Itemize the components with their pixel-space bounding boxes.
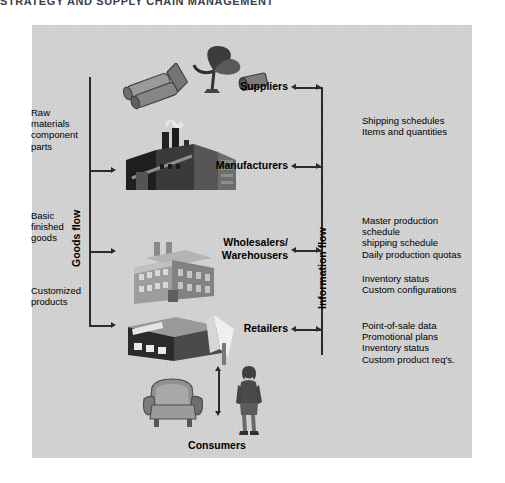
steel-rolls-icon (118, 63, 194, 115)
goods-input-customized-products: Customized products (31, 285, 91, 307)
info-arrow-right-manufacturers (316, 163, 321, 169)
stage-label-wholesalers: Wholesalers/ Warehousers (178, 236, 288, 261)
info-arrow-left-retailers (291, 326, 296, 332)
information-retailer-info: Point-of-sale data Promotional plans Inv… (362, 320, 484, 365)
goods-input-basic-finished-goods: Basic finished goods (31, 210, 89, 244)
supply-chain-diagram: Goods flow Information flow Suppliers Ma… (32, 25, 472, 458)
armchair-icon (142, 377, 204, 433)
information-flow-line (321, 87, 323, 355)
goods-flow-branch-manufacturers (89, 170, 111, 172)
info-arrow-right-suppliers (316, 84, 321, 90)
goods-flow-arrow-retailers (111, 322, 116, 328)
goods-flow-arrow-manufacturers (111, 167, 116, 173)
info-arrow-left-wholesalers (291, 247, 296, 253)
info-arrow-left-manufacturers (291, 163, 296, 169)
goods-flow-branch-wholesalers (89, 251, 111, 253)
consumers-flow-line (218, 371, 220, 413)
page-title: STRATEGY AND SUPPLY CHAIN MANAGEMENT (0, 0, 505, 7)
information-wholesaler-info: Inventory status Custom configurations (362, 273, 480, 295)
information-supplier-info: Shipping schedules Items and quantities (362, 115, 480, 137)
goods-flow-arrow-wholesalers (111, 248, 116, 254)
consumers-arrow-down (215, 411, 221, 416)
info-arrow-left-suppliers (291, 84, 296, 90)
stage-label-retailers: Retailers (194, 322, 288, 335)
stage-label-manufacturers: Manufacturers (178, 159, 288, 172)
goods-input-raw-materials: Raw materials component parts (31, 107, 89, 152)
goods-flow-branch-retailers (89, 325, 111, 327)
information-manufacturer-info: Master production schedule shipping sche… (362, 215, 480, 260)
information-flow-label: Information flow (316, 227, 328, 309)
info-arrow-right-wholesalers (316, 247, 321, 253)
stage-label-consumers: Consumers (162, 439, 272, 452)
info-arrow-right-retailers (316, 326, 321, 332)
consumers-arrow-up (215, 366, 221, 371)
stage-label-suppliers: Suppliers (194, 80, 288, 93)
consumer-person-icon (228, 365, 268, 437)
